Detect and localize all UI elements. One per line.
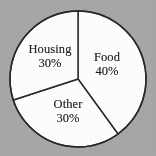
pie-label-other-name: Other [38,98,98,112]
pie-label-housing: Housing 30% [17,43,83,70]
pie-label-food: Food 40% [86,51,128,78]
pie-label-food-name: Food [86,51,128,65]
pie-chart-graphic [0,0,156,156]
pie-label-housing-name: Housing [17,43,83,57]
pie-label-other-value: 30% [38,112,98,126]
pie-label-other: Other 30% [38,98,98,125]
pie-label-food-value: 40% [86,65,128,79]
pie-chart: Food 40% Housing 30% Other 30% [0,0,156,156]
pie-label-housing-value: 30% [17,57,83,71]
